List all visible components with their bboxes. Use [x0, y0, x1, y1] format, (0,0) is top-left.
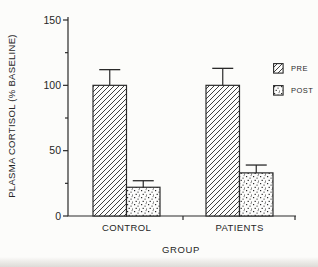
legend: PRE POST [273, 63, 313, 96]
figure-canvas: PLASMA CORTISOL (% BASELINE) GROUP 05010… [0, 0, 318, 267]
y-axis-label: PLASMA CORTISOL (% BASELINE) [6, 34, 17, 198]
y-tick-label: 150 [43, 14, 61, 26]
legend-item-post: POST [273, 85, 313, 96]
legend-item-pre: PRE [273, 63, 313, 74]
legend-label-pre: PRE [291, 64, 308, 72]
bar-control-post [127, 187, 161, 216]
bar-patients-pre [206, 85, 240, 216]
bar-control-pre [93, 85, 127, 216]
bar-chart: PLASMA CORTISOL (% BASELINE) GROUP 05010… [0, 0, 318, 267]
pre-hatch-swatch-icon [273, 63, 284, 74]
y-tick-label: 0 [55, 210, 61, 222]
x-axis-label: GROUP [162, 244, 200, 255]
y-tick-label: 50 [49, 144, 61, 156]
category-label-control: CONTROL [102, 222, 151, 233]
post-speckle-swatch-icon [273, 85, 284, 96]
y-tick-label: 100 [43, 79, 61, 91]
bar-patients-post [240, 173, 274, 216]
legend-label-post: POST [291, 86, 313, 94]
category-label-patients: PATIENTS [215, 222, 263, 233]
